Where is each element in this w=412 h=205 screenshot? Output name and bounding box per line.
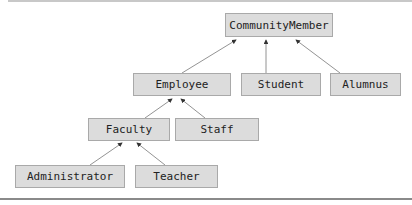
node-student: Student <box>241 73 321 96</box>
node-community-member: CommunityMember <box>225 13 333 37</box>
arrow-teacher-to-faculty <box>137 143 165 165</box>
arrow-faculty-to-employee <box>145 99 172 118</box>
node-employee: Employee <box>133 73 231 96</box>
diagram-canvas: CommunityMember Employee Student Alumnus… <box>0 0 412 205</box>
node-administrator: Administrator <box>15 165 125 188</box>
arrow-administrator-to-faculty <box>90 143 122 165</box>
bottom-rule <box>0 198 412 200</box>
node-alumnus: Alumnus <box>330 73 401 96</box>
arrow-employee-to-communitymember <box>182 40 236 73</box>
arrow-staff-to-employee <box>181 99 205 118</box>
node-teacher: Teacher <box>135 165 218 188</box>
arrow-alumnus-to-communitymember <box>296 40 340 73</box>
node-staff: Staff <box>175 118 259 141</box>
node-faculty: Faculty <box>88 118 170 141</box>
